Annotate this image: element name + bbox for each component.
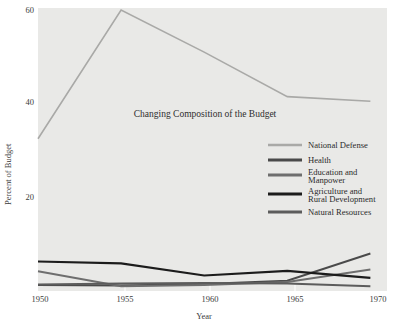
y-tick-label-20: 20 bbox=[26, 192, 35, 202]
legend-label-health: Health bbox=[308, 155, 332, 165]
x-tick-label-1960: 1960 bbox=[202, 294, 219, 304]
legend-label-national-defense: National Defense bbox=[308, 140, 368, 150]
x-tick-label-1970: 1970 bbox=[370, 294, 387, 304]
legend-label-education-and-manpower-line2: Manpower bbox=[308, 175, 345, 185]
x-tick-label-1950: 1950 bbox=[32, 294, 49, 304]
line-chart: 60 40 20 Percent of Budget 1950 1955 196… bbox=[0, 0, 399, 330]
legend-label-agriculture-and-rural-development-line2: Rural Development bbox=[308, 194, 376, 204]
y-tick-label-60: 60 bbox=[26, 5, 35, 15]
y-axis-title: Percent of Budget bbox=[3, 143, 13, 205]
chart-title: Changing Composition of the Budget bbox=[134, 109, 277, 119]
x-tick-label-1955: 1955 bbox=[117, 294, 134, 304]
y-tick-label-40: 40 bbox=[26, 97, 35, 107]
x-tick-label-1965: 1965 bbox=[287, 294, 304, 304]
figure-container: 60 40 20 Percent of Budget 1950 1955 196… bbox=[0, 0, 399, 330]
x-axis-title: Year bbox=[196, 311, 212, 321]
legend-label-natural-resources: Natural Resources bbox=[308, 207, 372, 217]
